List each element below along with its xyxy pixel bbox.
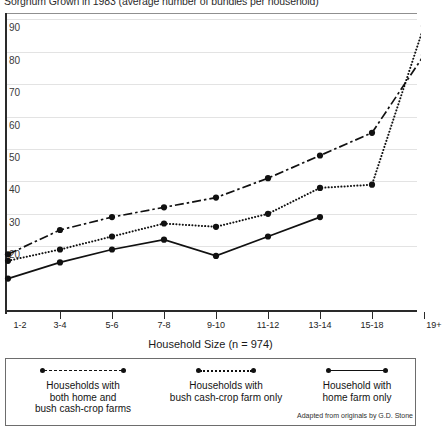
gridline-70 — [7, 84, 417, 85]
legend-item-bush-only: Households with bush cash-crop farm only — [156, 363, 296, 403]
y-tick-label-50: 50 — [9, 152, 22, 163]
x-tick-9-10 — [216, 312, 217, 319]
x-tick-label-15-18: 15-18 — [360, 320, 383, 330]
x-tick-11-12 — [268, 312, 269, 319]
x-tick-label-9-10: 9-10 — [207, 320, 225, 330]
legend-label-line2: both home and — [8, 392, 158, 404]
plot-area — [5, 13, 417, 313]
gridline-90 — [7, 19, 417, 20]
x-tick-label-7-8: 7-8 — [157, 320, 170, 330]
x-tick-15-18 — [372, 312, 373, 319]
gridline-30 — [7, 214, 417, 215]
legend-swatch-solid — [326, 363, 388, 377]
y-tick-label-60: 60 — [9, 119, 22, 130]
y-tick-label-40: 40 — [9, 184, 22, 195]
gridline-80 — [7, 52, 417, 53]
gridline-20 — [7, 246, 417, 247]
legend-item-both-farms: Households with both home and bush cash-… — [8, 363, 158, 415]
x-tick-label-13-14: 13-14 — [308, 320, 331, 330]
legend-swatch-dash-dot — [40, 363, 126, 377]
legend-label-line2: home farm only — [298, 392, 416, 404]
x-tick-label-1-2: 1-2 — [13, 320, 26, 330]
x-tick-label-19+: 19+ — [426, 320, 441, 330]
y-tick-label-90: 90 — [9, 22, 22, 33]
legend-label-line2: bush cash-crop farm only — [156, 392, 296, 404]
legend-label-line1: Household with — [298, 380, 416, 392]
legend-item-home-only: Household with home farm only — [298, 363, 416, 403]
gridline-50 — [7, 149, 417, 150]
x-tick-19+ — [424, 312, 425, 319]
gridline-60 — [7, 117, 417, 118]
y-tick-label-70: 70 — [9, 87, 22, 98]
y-axis-line — [5, 13, 7, 314]
x-axis-line — [5, 310, 417, 312]
plot-top-border — [5, 13, 417, 14]
legend-label-both-farms: Households with both home and bush cash-… — [8, 380, 158, 415]
gridline-40 — [7, 181, 417, 182]
x-tick-5-6 — [112, 312, 113, 319]
legend-swatch-dotted — [196, 363, 256, 377]
attribution-text: Adapted from originals by G.D. Stone — [297, 412, 413, 419]
x-tick-7-8 — [164, 312, 165, 319]
y-tick-label-30: 30 — [9, 216, 22, 227]
x-tick-13-14 — [320, 312, 321, 319]
y-tick-label-80: 80 — [9, 54, 22, 65]
legend-label-bush-only: Households with bush cash-crop farm only — [156, 380, 296, 403]
y-tick-label-20: 20 — [9, 249, 22, 260]
legend-label-line1: Households with — [156, 380, 296, 392]
legend-label-home-only: Household with home farm only — [298, 380, 416, 403]
x-tick-label-11-12: 11-12 — [257, 320, 279, 330]
x-axis-title: Household Size (n = 974) — [0, 338, 421, 350]
x-tick-label-3-4: 3-4 — [53, 320, 66, 330]
x-tick-label-5-6: 5-6 — [105, 320, 118, 330]
page-title: Sorghum Grown in 1983 (average number of… — [4, 0, 319, 7]
x-tick-3-4 — [60, 312, 61, 319]
legend-label-line3: bush cash-crop farms — [8, 403, 158, 415]
legend-label-line1: Households with — [8, 380, 158, 392]
